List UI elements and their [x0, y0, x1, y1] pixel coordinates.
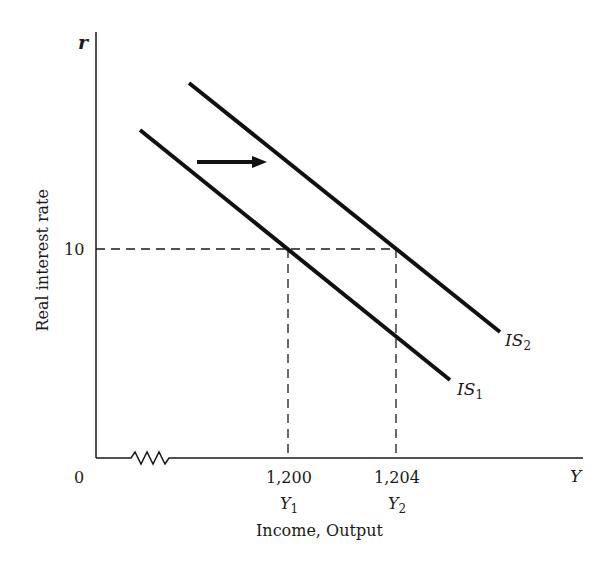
x-axis-symbol: Y — [570, 466, 581, 486]
shift-arrow-icon — [197, 156, 267, 168]
x-axis-title: Income, Output — [256, 521, 383, 540]
x-axis — [96, 452, 583, 464]
origin-label: 0 — [74, 468, 84, 487]
y-tick-10: 10 — [64, 240, 84, 259]
is1-label: IS1 — [457, 379, 483, 402]
y-axis-title: Real interest rate — [33, 192, 52, 332]
y2-symbol: Y2 — [388, 494, 406, 516]
x-tick-1200: 1,200 — [266, 468, 312, 487]
x-tick-1204: 1,204 — [374, 468, 420, 487]
y1-symbol: Y1 — [280, 494, 298, 516]
y-axis-symbol: r — [78, 31, 88, 53]
is2-label: IS2 — [505, 330, 531, 353]
